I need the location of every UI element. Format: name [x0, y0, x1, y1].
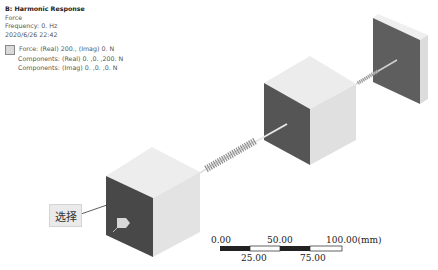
wall-support[interactable]: [373, 14, 428, 104]
scale-bar: 0.00 50.00 100.00(mm) 25.00 75.00: [210, 233, 410, 263]
scale-tick-75: 75.00: [300, 253, 326, 263]
mass-block-1[interactable]: [106, 147, 200, 257]
spring-1[interactable]: [200, 124, 287, 173]
scale-tick-25: 25.00: [241, 253, 267, 263]
model-viewport[interactable]: [0, 0, 438, 270]
scale-tick-0: 0.00: [211, 235, 231, 245]
selection-annotation-label[interactable]: 选择: [49, 204, 82, 227]
scale-tick-100: 100.00(mm): [326, 235, 382, 245]
mass-block-2[interactable]: [264, 56, 356, 165]
annotation-leader: [81, 205, 107, 214]
scale-tick-50: 50.00: [267, 235, 293, 245]
